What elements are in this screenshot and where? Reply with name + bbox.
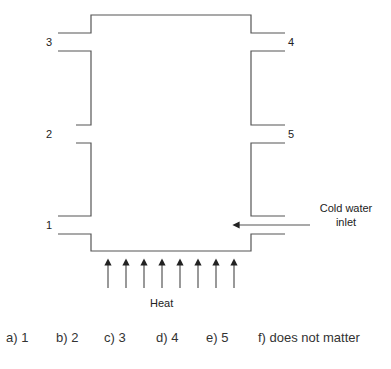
tank-diagram [0, 0, 391, 369]
port-label-5: 5 [288, 128, 294, 140]
inlet-label-line1: Cold water [315, 201, 377, 215]
inlet-label-line2: inlet [315, 215, 377, 229]
choice-c[interactable]: c) 3 [104, 330, 126, 345]
heat-label: Heat [150, 297, 173, 309]
choice-f[interactable]: f) does not matter [258, 330, 360, 345]
heat-arrows [108, 262, 234, 288]
port-label-1: 1 [46, 219, 52, 231]
choice-b[interactable]: b) 2 [56, 330, 78, 345]
choice-a[interactable]: a) 1 [6, 330, 28, 345]
port-label-2: 2 [46, 128, 52, 140]
port-label-3: 3 [46, 36, 52, 48]
tank-outline [58, 15, 285, 251]
port-label-4: 4 [288, 36, 294, 48]
choice-d[interactable]: d) 4 [156, 330, 178, 345]
choice-e[interactable]: e) 5 [206, 330, 228, 345]
cold-water-inlet-label: Cold water inlet [315, 201, 377, 229]
